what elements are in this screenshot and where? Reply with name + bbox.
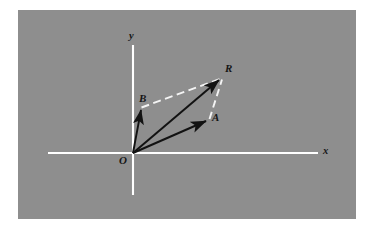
x-axis-label: x (323, 146, 328, 157)
origin-label: O (119, 155, 127, 166)
vector-oa (133, 121, 206, 153)
vector-diagram (0, 0, 373, 235)
construction-line-b-to-r (142, 79, 222, 108)
point-label-r: R (225, 63, 232, 74)
vector-or (133, 80, 219, 153)
point-label-a: A (212, 112, 219, 123)
figure-container: y x O A B R (0, 0, 373, 235)
point-label-b: B (139, 93, 146, 104)
y-axis-label: y (129, 31, 134, 42)
